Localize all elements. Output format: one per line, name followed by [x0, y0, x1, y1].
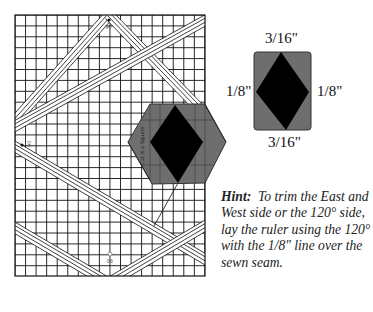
detail-right-label: 1/8" — [317, 83, 342, 100]
angle-label-top: 90 — [105, 24, 111, 30]
angle-label-bottom: 90 — [107, 258, 113, 264]
angle-label-left: 90 — [26, 141, 32, 147]
detail-top-label: 3/16" — [265, 30, 298, 47]
detail-bottom-label: 3/16" — [268, 134, 301, 151]
ruler-text: Cut in a Square — [139, 126, 146, 165]
detail-left-label: 1/8" — [226, 83, 251, 100]
hint-text: Hint: To trim the East and West side or … — [221, 189, 371, 271]
hint-label: Hint: — [221, 189, 251, 204]
